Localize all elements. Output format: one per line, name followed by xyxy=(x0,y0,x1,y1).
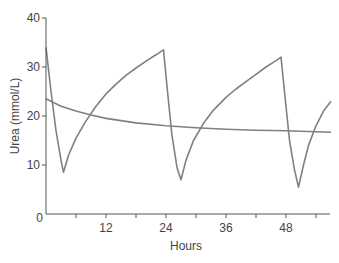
x-tick-label: 24 xyxy=(159,221,173,235)
x-axis: 12243648 xyxy=(46,214,330,235)
urea-chart: 010203040 12243648 Hours Urea (mmol/L) xyxy=(0,0,339,263)
x-tick-label: 12 xyxy=(99,221,113,235)
y-axis: 010203040 xyxy=(27,11,46,225)
x-axis-title: Hours xyxy=(170,239,202,253)
x-tick-label: 36 xyxy=(219,221,233,235)
y-tick-label: 40 xyxy=(27,11,41,25)
y-tick-label: 10 xyxy=(27,158,41,172)
y-axis-title: Urea (mmol/L) xyxy=(8,78,22,155)
y-tick-label: 30 xyxy=(27,60,41,74)
series-intermittent-dialysis xyxy=(46,47,331,187)
y-tick-label: 20 xyxy=(27,109,41,123)
y-tick-label: 0 xyxy=(36,211,43,225)
plot-area xyxy=(46,47,331,187)
x-tick-label: 48 xyxy=(279,221,293,235)
